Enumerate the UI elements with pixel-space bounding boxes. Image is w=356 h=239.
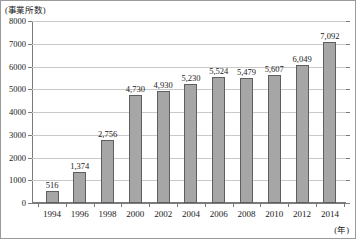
y-axis-tick-mark	[28, 89, 32, 90]
y-axis-tick-mark-right	[346, 135, 350, 136]
bar-value-label: 4,730	[126, 84, 145, 94]
x-axis-caption: (年)	[334, 223, 349, 235]
bar	[157, 91, 170, 203]
x-axis-tick-label: 2002	[154, 209, 172, 219]
y-axis-tick-label: 0	[22, 198, 26, 208]
y-axis-tick-mark	[28, 203, 32, 204]
bar-value-label: 516	[46, 180, 59, 190]
y-axis-tick-mark	[28, 135, 32, 136]
x-axis-tick-mark	[121, 203, 122, 207]
bar-value-label: 1,374	[70, 161, 89, 171]
y-axis-tick-mark-right	[346, 67, 350, 68]
bar-chart-figure: (事業所数) 010002000300040005000600070008000…	[0, 0, 356, 239]
x-axis-tick-mark	[316, 203, 317, 207]
y-axis-tick-label: 6000	[9, 62, 26, 72]
x-axis-tick-label: 1996	[71, 209, 89, 219]
y-axis-tick-mark-right	[346, 158, 350, 159]
y-axis-tick-label: 4000	[9, 107, 26, 117]
x-axis-tick-label: 2000	[126, 209, 144, 219]
bar-value-label: 5,479	[237, 67, 256, 77]
x-axis-tick-mark	[66, 203, 67, 207]
gridline	[32, 203, 346, 204]
y-axis-tick-mark	[28, 180, 32, 181]
x-axis-tick-label: 2004	[182, 209, 200, 219]
bar	[212, 77, 225, 203]
y-axis-tick-label: 5000	[9, 84, 26, 94]
x-axis-tick-label: 2008	[238, 209, 256, 219]
bar-value-label: 4,930	[154, 80, 173, 90]
bar	[323, 42, 336, 203]
y-axis-tick-mark-right	[346, 112, 350, 113]
y-axis-tick-label: 7000	[9, 39, 26, 49]
x-axis-tick-mark	[38, 203, 39, 207]
bar	[240, 78, 253, 203]
y-axis-tick-mark	[28, 112, 32, 113]
x-axis-tick-mark	[149, 203, 150, 207]
bar-value-label: 2,756	[98, 129, 117, 139]
gridline	[32, 44, 346, 45]
y-axis-tick-label: 3000	[9, 130, 26, 140]
bar-value-label: 5,230	[181, 73, 200, 83]
bar-value-label: 5,524	[209, 66, 228, 76]
bar	[101, 140, 114, 203]
bar	[129, 95, 142, 203]
y-axis-caption: (事業所数)	[5, 3, 45, 15]
x-axis-tick-label: 2014	[321, 209, 339, 219]
y-axis-tick-label: 1000	[9, 175, 26, 185]
y-axis-tick-mark-right	[346, 44, 350, 45]
gridline	[32, 21, 346, 22]
y-axis-tick-mark	[28, 44, 32, 45]
x-axis-tick-label: 2006	[210, 209, 228, 219]
bar-value-label: 5,607	[265, 64, 284, 74]
bar-value-label: 6,049	[293, 54, 312, 64]
x-axis-tick-mark	[233, 203, 234, 207]
x-axis-tick-mark	[177, 203, 178, 207]
y-axis-tick-mark-right	[346, 203, 350, 204]
x-axis-tick-label: 1998	[99, 209, 117, 219]
y-axis-tick-label: 2000	[9, 153, 26, 163]
bar	[268, 75, 281, 203]
bar-value-label: 7,092	[320, 31, 339, 41]
x-axis-tick-mark	[288, 203, 289, 207]
bar	[73, 172, 86, 203]
y-axis-tick-label: 8000	[9, 16, 26, 26]
y-axis-tick-mark	[28, 67, 32, 68]
plot-area: 010002000300040005000600070008000 5161,3…	[32, 21, 346, 203]
bar	[46, 191, 59, 203]
y-axis-tick-mark-right	[346, 180, 350, 181]
x-axis-tick-label: 1994	[43, 209, 61, 219]
y-axis-tick-mark-right	[346, 89, 350, 90]
x-axis-tick-mark	[260, 203, 261, 207]
y-axis-tick-mark	[28, 21, 32, 22]
y-axis-tick-mark	[28, 158, 32, 159]
x-axis-tick-mark	[344, 203, 345, 207]
x-axis-tick-label: 2010	[265, 209, 283, 219]
y-axis-tick-mark-right	[346, 21, 350, 22]
x-axis-tick-mark	[94, 203, 95, 207]
x-axis-tick-label: 2012	[293, 209, 311, 219]
bar	[296, 65, 309, 203]
x-axis-tick-mark	[205, 203, 206, 207]
bar	[184, 84, 197, 203]
